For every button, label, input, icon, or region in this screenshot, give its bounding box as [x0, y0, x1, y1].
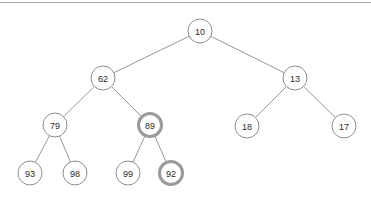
- node-label-99: 99: [123, 169, 133, 179]
- tree-node-99[interactable]: 99: [116, 161, 140, 185]
- tree-node-89[interactable]: 89: [139, 114, 162, 137]
- tree-node-13[interactable]: 13: [283, 66, 307, 90]
- node-label-79: 79: [50, 121, 60, 131]
- tree-node-10[interactable]: 10: [188, 19, 212, 43]
- tree-edge-13-17: [304, 86, 336, 117]
- tree-node-98[interactable]: 98: [63, 161, 87, 185]
- node-label-13: 13: [290, 74, 300, 84]
- tree-node-93[interactable]: 93: [18, 161, 42, 185]
- node-label-18: 18: [242, 122, 252, 132]
- node-label-92: 92: [166, 169, 176, 179]
- tree-edge-79-98: [60, 136, 71, 162]
- tree-nodes-group: 1062137989181793989992: [18, 19, 356, 185]
- tree-node-62[interactable]: 62: [91, 66, 115, 90]
- node-label-17: 17: [339, 122, 349, 132]
- tree-edge-89-92: [155, 136, 167, 163]
- node-label-93: 93: [25, 169, 35, 179]
- tree-edge-13-18: [255, 86, 286, 117]
- tree-edge-79-93: [36, 136, 50, 163]
- tree-edge-62-79: [64, 86, 95, 116]
- tree-edges-group: [36, 36, 336, 162]
- tree-node-18[interactable]: 18: [235, 114, 259, 138]
- node-label-10: 10: [195, 27, 205, 37]
- tree-node-17[interactable]: 17: [332, 114, 356, 138]
- tree-node-79[interactable]: 79: [43, 113, 67, 137]
- node-label-62: 62: [98, 74, 108, 84]
- tree-edge-62-89: [111, 86, 141, 116]
- tree-edge-89-99: [133, 135, 145, 162]
- node-label-98: 98: [70, 169, 80, 179]
- binary-tree-graphic: 1062137989181793989992: [0, 0, 371, 197]
- tree-edge-10-62: [114, 36, 189, 73]
- tree-diagram-canvas: 1062137989181793989992: [0, 0, 371, 197]
- tree-node-92[interactable]: 92: [160, 162, 183, 185]
- node-label-89: 89: [145, 121, 155, 131]
- tree-edge-10-13: [211, 36, 284, 72]
